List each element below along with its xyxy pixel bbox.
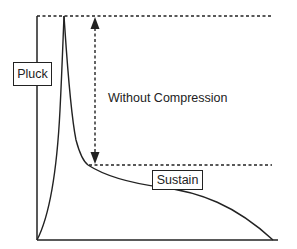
decay-curve [64,16,88,165]
envelope-diagram [0,0,297,249]
attack-curve [37,16,64,240]
range-arrow [91,17,100,164]
arrowhead-down-icon [91,152,100,164]
arrowhead-up-icon [91,17,100,29]
range-annotation: Without Compression [108,91,228,105]
pluck-label: Pluck [13,62,52,86]
sustain-label: Sustain [152,170,203,190]
